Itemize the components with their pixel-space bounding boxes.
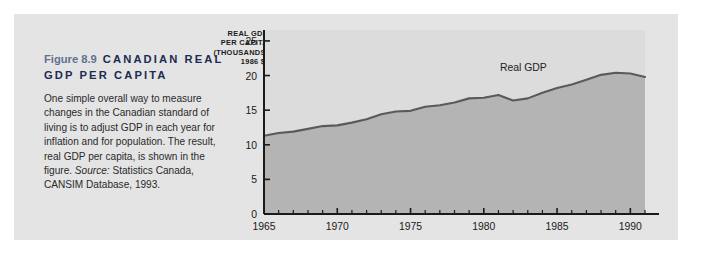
chart-area: REAL GDP PER CAPITA (THOUSANDS, 1986 $) …	[200, 24, 670, 234]
series-annotation-real-gdp: Real GDP	[500, 62, 547, 73]
y-tick-label: 15	[245, 105, 257, 116]
y-tick-label: 0	[251, 209, 257, 220]
caption-body-text: One simple overall way to measure change…	[44, 93, 216, 176]
figure-number: Figure 8.9	[44, 53, 97, 65]
y-axis-tick-labels: 0510152025	[245, 36, 257, 220]
x-tick-label: 1985	[546, 221, 569, 232]
x-axis-tick-labels: 196519701975198019851990	[252, 221, 642, 232]
y-tick-label: 10	[245, 140, 257, 151]
y-tick-label: 20	[245, 71, 257, 82]
x-tick-label: 1990	[619, 221, 642, 232]
x-tick-label: 1970	[326, 221, 349, 232]
source-label: Source:	[75, 165, 110, 176]
y-tick-label: 5	[251, 174, 257, 185]
figure-root: Figure 8.9CANADIAN REAL GDP PER CAPITA O…	[0, 0, 705, 254]
x-tick-label: 1965	[252, 221, 275, 232]
y-tick-label: 25	[245, 36, 257, 47]
real-gdp-per-capita-chart: 0510152025 196519701975198019851990	[200, 24, 670, 234]
x-tick-label: 1980	[472, 221, 495, 232]
x-tick-label: 1975	[399, 221, 422, 232]
